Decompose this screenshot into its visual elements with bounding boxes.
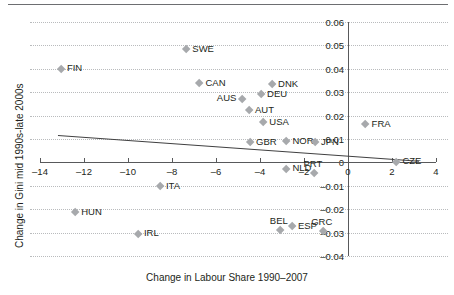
x-axis-tick [436, 158, 437, 162]
data-point-label: NOR [292, 135, 313, 146]
y-axis-tick-label: –0.04 [306, 251, 344, 262]
data-point-label: GRC [311, 216, 332, 227]
y-axis-tick-label: 0.05 [306, 40, 344, 51]
diamond-marker-icon [182, 45, 191, 54]
y-axis-line [348, 22, 349, 256]
x-axis-tick [84, 158, 85, 162]
data-point-label: IRL [144, 227, 159, 238]
y-gridline [30, 92, 448, 93]
y-axis-tick-label: 0.02 [306, 110, 344, 121]
y-axis-tick-label: 0.04 [306, 63, 344, 74]
diamond-marker-icon [56, 64, 65, 73]
diamond-marker-icon [282, 164, 291, 173]
diamond-marker-icon [195, 79, 204, 88]
diamond-marker-icon [238, 94, 247, 103]
y-axis-tick-label: 0.03 [306, 87, 344, 98]
y-gridline [30, 233, 448, 234]
diamond-marker-icon [155, 182, 164, 191]
x-axis-title: Change in Labour Share 1990–2007 [0, 272, 454, 283]
data-point-label: CZE [402, 155, 421, 166]
x-axis-tick [260, 158, 261, 162]
x-axis-tick-label: –6 [211, 166, 222, 177]
y-gridline [30, 22, 448, 23]
data-point-label: USA [269, 116, 289, 127]
x-axis-tick-label: 2 [389, 166, 394, 177]
x-axis-tick [348, 158, 349, 162]
x-axis-tick [172, 158, 173, 162]
chart-figure: 0.060.050.040.030.020.010–0.01–0.02–0.03… [0, 0, 454, 295]
x-axis-tick [128, 158, 129, 162]
data-point-label: CAN [206, 77, 226, 88]
data-point-label: FRA [372, 118, 391, 129]
data-point-label: DEU [267, 88, 287, 99]
x-axis-tick-label: –12 [76, 166, 92, 177]
data-point-label: SWE [192, 43, 214, 54]
data-point-label: BEL [270, 215, 288, 226]
x-axis-tick [216, 158, 217, 162]
y-gridline [30, 139, 448, 140]
data-point-label: PRT [303, 158, 322, 169]
data-point-label: ITA [166, 180, 180, 191]
data-point-label: HUN [81, 206, 102, 217]
x-axis-tick [40, 158, 41, 162]
diamond-marker-icon [259, 118, 268, 127]
data-point-label: FIN [67, 62, 82, 73]
diamond-marker-icon [287, 222, 296, 231]
data-point-label: GBR [256, 136, 277, 147]
scatter-plot-area: 0.060.050.040.030.020.010–0.01–0.02–0.03… [0, 0, 454, 295]
data-point-label: AUT [255, 104, 274, 115]
x-axis-line [40, 162, 436, 163]
y-axis-tick-label: 0.06 [306, 17, 344, 28]
x-axis-tick-label: –10 [120, 166, 136, 177]
data-point-label: AUS [217, 92, 237, 103]
y-axis-title: Change in Gini mid 1990s-late 2000s [14, 83, 25, 248]
diamond-marker-icon [361, 120, 370, 129]
data-point-label: JPN [321, 136, 339, 147]
x-axis-tick-label: –8 [167, 166, 178, 177]
diamond-marker-icon [133, 229, 142, 238]
y-axis-tick-label: –0.01 [306, 180, 344, 191]
x-axis-tick-label: 0 [345, 166, 350, 177]
y-gridline [30, 69, 448, 70]
y-gridline [30, 116, 448, 117]
y-axis-tick-label: –0.02 [306, 204, 344, 215]
x-axis-tick-label: 4 [433, 166, 438, 177]
diamond-marker-icon [244, 106, 253, 115]
y-gridline [30, 45, 448, 46]
y-gridline [30, 256, 448, 257]
x-axis-tick-label: –4 [255, 166, 266, 177]
y-gridline [30, 186, 448, 187]
x-axis-tick-label: –14 [32, 166, 48, 177]
